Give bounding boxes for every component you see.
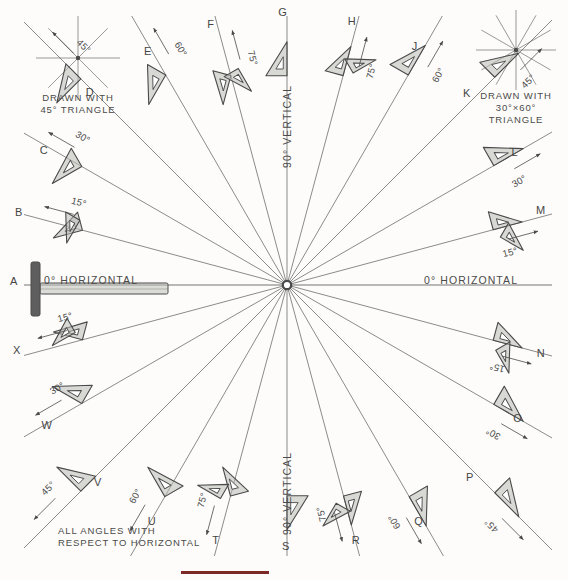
angle-tick-P (502, 518, 523, 539)
angle-tick-W (36, 400, 62, 415)
triangle-body (495, 478, 534, 517)
legend-star-center (76, 56, 80, 60)
triangle-body (344, 491, 370, 525)
station-letter-W: W (41, 419, 52, 431)
station-letter-H: H (348, 15, 357, 27)
legend-star-center (514, 48, 518, 52)
triangle-body (488, 204, 522, 230)
station-letter-R: R (352, 534, 361, 546)
legend-caption-3060: DRAWN WITH 30°×60° TRIANGLE (456, 90, 568, 126)
ray-255deg (214, 285, 287, 556)
drafting-angle-chart: 0° HORIZONTAL 0° HORIZONTAL 90° VERTICAL… (0, 0, 568, 580)
triangle-T (223, 462, 249, 496)
center-hub (283, 281, 291, 289)
angle-tick-J (428, 41, 443, 67)
triangle-body (390, 35, 425, 75)
triangle-body (57, 452, 96, 491)
legend-star-45 (36, 16, 120, 100)
triangle-R (344, 491, 370, 525)
angle-tick-V (34, 498, 55, 519)
ray-210deg (24, 285, 287, 437)
legend-star-3060 (476, 10, 556, 90)
ray-120deg (132, 16, 287, 285)
triangle-body (223, 462, 249, 496)
station-letter-D: D (86, 86, 95, 98)
triangle-P (495, 478, 534, 517)
station-letter-O: O (513, 412, 522, 424)
triangle-V (57, 452, 96, 491)
angle-tick-C (49, 132, 75, 147)
station-letter-L: L (512, 146, 519, 158)
station-letter-S: S (282, 540, 290, 552)
station-letter-E: E (144, 45, 152, 57)
station-letter-G: G (278, 6, 287, 18)
angle-tick-B (45, 207, 74, 215)
triangle-body (148, 457, 183, 497)
station-letter-M: M (536, 204, 546, 216)
axis-label-horizontal-right: 0° HORIZONTAL (424, 274, 518, 286)
station-letter-N: N (537, 347, 546, 359)
station-letter-Q: Q (414, 515, 423, 527)
axis-label-horizontal-left: 0° HORIZONTAL (44, 274, 138, 286)
station-letter-B: B (15, 206, 23, 218)
angle-tick-O (501, 424, 527, 439)
triangle-J (390, 35, 425, 75)
triangle-M (488, 204, 522, 230)
axis-label-vertical-bottom: 90° VERTICAL (281, 452, 293, 535)
angle-tick-D (53, 32, 74, 53)
t-square (31, 262, 168, 316)
legend-caption-45: DRAWN WITH 45° TRIANGLE (18, 92, 138, 116)
station-letter-K: K (463, 87, 471, 99)
angle-tick-E (154, 28, 169, 54)
triangle-U (148, 457, 183, 497)
triangle-G (266, 42, 287, 76)
axis-label-vertical-top: 90° VERTICAL (281, 85, 293, 168)
angle-tick-F (232, 30, 240, 59)
triangle-body (266, 42, 287, 76)
station-letter-F: F (207, 18, 215, 30)
station-letter-V: V (94, 476, 102, 488)
station-letter-X: X (13, 344, 21, 356)
station-letter-T: T (212, 534, 220, 546)
station-letter-C: C (40, 144, 49, 156)
t-square-head (31, 262, 40, 316)
station-letter-A: A (10, 275, 18, 287)
station-letter-P: P (466, 471, 474, 483)
station-letter-J: J (412, 40, 418, 52)
footer-rule (181, 571, 269, 574)
ray-150deg (24, 133, 287, 285)
station-letter-U: U (148, 515, 157, 527)
angle-tick-K (520, 49, 541, 70)
